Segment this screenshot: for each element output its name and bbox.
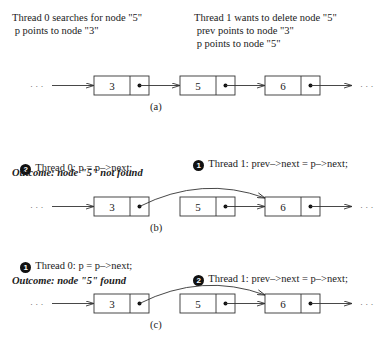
node-value: 6 [280, 201, 286, 213]
list-node-5: 5 [180, 76, 265, 95]
list-node-3: 3 [94, 188, 265, 216]
panel-b-list: · · ·356· · · [30, 188, 374, 216]
list-node-5: 5 [180, 197, 265, 216]
panel-a-list: · · ·356· · · [30, 76, 374, 95]
list-node-6: 6 [265, 294, 352, 313]
node-value: 5 [195, 298, 201, 310]
linked-list-diagram: · · ·356· · ·· · ·356· · ·· · ·356· · · [0, 0, 392, 348]
node-value: 3 [109, 201, 115, 213]
ellipsis-left: · · · [30, 299, 44, 309]
node-value: 5 [195, 201, 201, 213]
list-node-6: 6 [265, 76, 352, 95]
node-value: 3 [109, 80, 115, 92]
panel-c-list: · · ·356· · · [30, 285, 374, 313]
list-node-3: 3 [94, 76, 180, 95]
cropped-caption-text [0, 340, 392, 348]
list-node-6: 6 [265, 197, 352, 216]
ellipsis-right: · · · [360, 299, 374, 309]
ellipsis-left: · · · [30, 202, 44, 212]
node-value: 6 [280, 80, 286, 92]
node-value: 3 [109, 298, 115, 310]
ellipsis-right: · · · [360, 81, 374, 91]
list-node-3: 3 [94, 285, 265, 313]
ellipsis-left: · · · [30, 81, 44, 91]
node-value: 6 [280, 298, 286, 310]
list-node-5: 5 [180, 294, 265, 313]
node-value: 5 [195, 80, 201, 92]
ellipsis-right: · · · [360, 202, 374, 212]
